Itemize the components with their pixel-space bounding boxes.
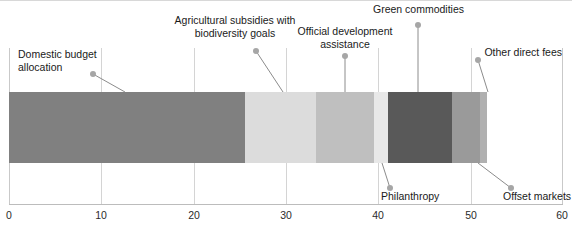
bar-segment-official-development-assistance	[316, 92, 373, 163]
callout-dot-agricultural-subsidies	[253, 48, 259, 54]
x-axis-line	[9, 204, 563, 205]
bar-segment-other-direct-fees	[480, 92, 487, 163]
stacked-bar-chart: Domestic budget allocation Agricultural …	[0, 0, 572, 235]
callout-dot-green-commodities	[415, 22, 421, 28]
bar-segment-domestic-budget-allocation	[9, 92, 245, 163]
callout-label-domestic-budget-allocation: Domestic budget allocation	[18, 48, 138, 73]
bar-segment-offset-markets	[452, 92, 480, 163]
callout-label-agricultural-subsidies: Agricultural subsidies with biodiversity…	[155, 14, 315, 39]
x-tick-label-0: 0	[6, 209, 12, 222]
callout-label-other-direct-fees: Other direct fees	[452, 46, 562, 59]
gridline-60	[562, 48, 563, 204]
bar-segment-green-commodities	[388, 92, 453, 163]
x-tick-label-20: 20	[188, 209, 200, 222]
callout-label-green-commodities: Green commodities	[356, 3, 481, 16]
callout-label-offset-markets: Offset markets	[503, 190, 572, 203]
x-tick-label-60: 60	[556, 209, 568, 222]
bar-segment-philanthropy	[374, 92, 388, 163]
x-tick-label-50: 50	[465, 209, 477, 222]
stacked-bar-series	[9, 92, 487, 163]
top-divider	[0, 0, 572, 1]
x-tick-label-30: 30	[280, 209, 292, 222]
callout-label-official-development-assistance: Official development assistance	[293, 25, 397, 50]
callout-label-philanthropy: Philanthropy	[381, 190, 471, 203]
x-tick-label-10: 10	[95, 209, 107, 222]
callout-dot-official-development-assistance	[342, 53, 348, 59]
bar-segment-agricultural-subsidies-with-biodiversity-goals	[245, 92, 316, 163]
x-tick-label-40: 40	[372, 209, 384, 222]
